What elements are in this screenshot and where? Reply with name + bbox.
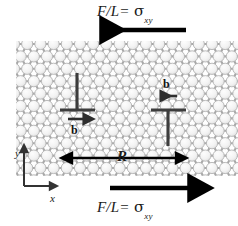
bottom-stress-sigma: σ (134, 198, 144, 216)
separation-label-R: R (117, 149, 127, 164)
y-axis-label: y (15, 148, 20, 159)
bottom-stress-subscript: xy (144, 211, 152, 221)
dislocation-shear-figure: F/L= σxy F/L= σxy R y x b b (0, 0, 238, 226)
top-stress-label: F/L= σxy (97, 4, 153, 22)
top-stress-equals: = (119, 3, 130, 19)
bottom-stress-label: F/L= σxy (97, 200, 153, 218)
bottom-stress-force: F/L (97, 199, 119, 215)
burgers-label-right: b (163, 78, 170, 90)
burgers-label-left: b (71, 124, 78, 136)
x-axis-label: x (50, 193, 55, 204)
bottom-stress-equals: = (119, 199, 130, 215)
top-stress-force: F/L (97, 3, 119, 19)
top-stress-sigma: σ (134, 2, 144, 20)
top-stress-subscript: xy (144, 15, 152, 25)
